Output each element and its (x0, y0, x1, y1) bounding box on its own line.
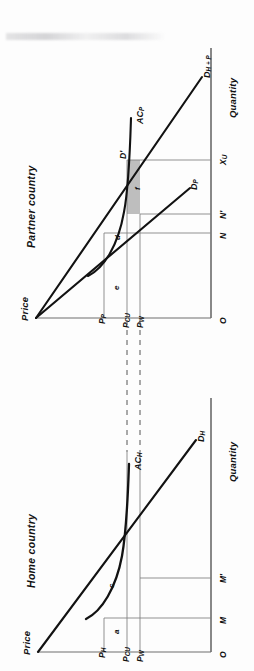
home-quantity-axis-label: Quantity (228, 442, 238, 482)
home-tick-m-prime: M' (219, 574, 228, 583)
home-panel-title: Home country (26, 514, 37, 588)
home-price-axis-label: Price (22, 631, 32, 655)
home-tick-p-cu: PCU (122, 647, 132, 662)
home-tick-p-h: PH (98, 648, 108, 658)
figure-page: Partner country Price Quantity O DH + P … (0, 0, 254, 671)
home-region-label-c: c (108, 584, 116, 588)
home-curve-ac-h (86, 464, 129, 619)
home-curve-label-d-h: DH (197, 431, 207, 442)
home-curve-label-ac-h: ACH (134, 452, 144, 470)
home-region-label-a: a (113, 630, 121, 634)
home-tick-p-w: PW (136, 650, 146, 662)
home-curve-d-h (38, 440, 196, 652)
home-origin-label: O (219, 651, 228, 658)
home-country-plot (0, 0, 254, 671)
home-tick-m: M (219, 617, 228, 624)
